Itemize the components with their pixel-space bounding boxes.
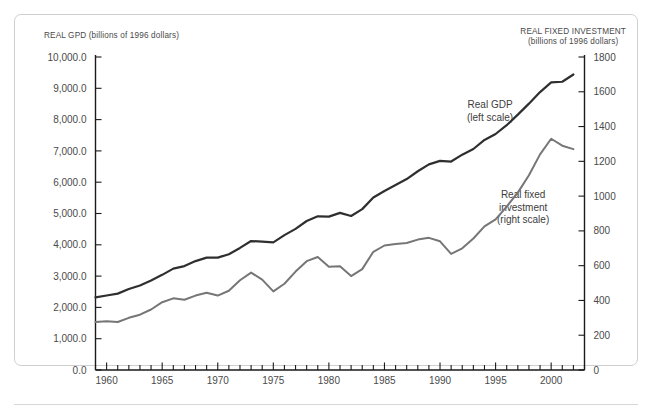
y-tick-label-left: 3,000.0 bbox=[53, 271, 87, 282]
y-tick-label-right: 400 bbox=[594, 295, 611, 306]
y-tick-label-left: 6,000.0 bbox=[53, 177, 87, 188]
x-tick-label: 1970 bbox=[207, 375, 230, 386]
x-tick-label: 1960 bbox=[95, 375, 118, 386]
y-tick-label-left: 7,000.0 bbox=[53, 146, 87, 157]
x-tick-label: 2000 bbox=[540, 375, 563, 386]
y-tick-label-left: 1,000.0 bbox=[53, 333, 87, 344]
x-tick-label: 1980 bbox=[318, 375, 341, 386]
y-tick-label-right: 1600 bbox=[594, 86, 617, 97]
y-tick-label-right: 200 bbox=[594, 330, 611, 341]
y-tick-label-left: 9,000.0 bbox=[53, 83, 87, 94]
y-tick-label-right: 1000 bbox=[594, 191, 617, 202]
x-tick-label: 1995 bbox=[484, 375, 507, 386]
y-tick-label-left: 4,000.0 bbox=[53, 239, 87, 250]
series-group bbox=[96, 75, 574, 322]
y-tick-label-left: 5,000.0 bbox=[53, 208, 87, 219]
y-tick-label-right: 600 bbox=[594, 260, 611, 271]
x-tick-label: 1985 bbox=[373, 375, 396, 386]
line-chart-plot: 0.01,000.02,000.03,000.04,000.05,000.06,… bbox=[0, 0, 654, 418]
y-tick-label-right: 1400 bbox=[594, 121, 617, 132]
y-tick-label-right: 0 bbox=[594, 365, 600, 376]
y-tick-label-left: 10,000.0 bbox=[48, 52, 87, 63]
x-tick-label: 1975 bbox=[262, 375, 285, 386]
y-tick-label-left: 0.0 bbox=[73, 365, 87, 376]
series-line-gdp bbox=[96, 75, 574, 298]
y-tick-label-left: 2,000.0 bbox=[53, 302, 87, 313]
series-line-investment bbox=[96, 139, 574, 322]
x-tick-label: 1990 bbox=[429, 375, 452, 386]
y-tick-label-right: 800 bbox=[594, 225, 611, 236]
y-tick-label-left: 8,000.0 bbox=[53, 114, 87, 125]
y-tick-label-right: 1800 bbox=[594, 52, 617, 63]
figure-root: REAL GPD (billions of 1996 dollars) REAL… bbox=[0, 0, 654, 418]
y-tick-label-right: 1200 bbox=[594, 156, 617, 167]
x-tick-label: 1965 bbox=[151, 375, 174, 386]
